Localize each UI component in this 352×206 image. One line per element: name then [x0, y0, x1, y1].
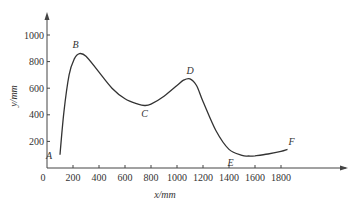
curve-line	[60, 53, 288, 156]
y-tick-label: 1000	[24, 30, 44, 41]
y-axis-arrow-icon	[45, 12, 50, 20]
x-tick-label: 1200	[193, 172, 213, 183]
x-tick-label: 200	[66, 172, 81, 183]
y-tick-label: 800	[29, 56, 44, 67]
point-labels: ABCDEF	[45, 39, 296, 168]
line-chart: 2004006008001000120014001600180020040060…	[0, 0, 352, 206]
y-tick-label: 400	[29, 109, 44, 120]
origin-label: 0	[41, 172, 46, 183]
x-tick-label: 1800	[271, 172, 291, 183]
axes	[45, 12, 349, 171]
x-tick-label: 600	[118, 172, 133, 183]
y-tick-label: 600	[29, 83, 44, 94]
x-axis-arrow-icon	[340, 166, 348, 171]
point-label-c: C	[141, 108, 148, 119]
point-label-a: A	[45, 150, 53, 161]
y-axis-title: y/mm	[8, 85, 19, 108]
point-label-d: D	[185, 65, 194, 76]
y-tick-label: 200	[29, 136, 44, 147]
point-label-b: B	[72, 39, 78, 50]
point-label-f: F	[287, 136, 295, 147]
point-label-e: E	[226, 157, 233, 168]
x-tick-label: 400	[92, 172, 107, 183]
x-tick-label: 1400	[219, 172, 239, 183]
x-tick-label: 1600	[245, 172, 265, 183]
x-axis-title: x/mm	[153, 189, 176, 200]
x-tick-label: 1000	[167, 172, 187, 183]
x-tick-label: 800	[144, 172, 159, 183]
data-curve	[60, 53, 288, 156]
